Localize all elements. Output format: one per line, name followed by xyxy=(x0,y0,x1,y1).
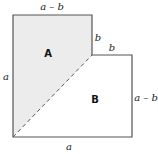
top-edge-label: a – b xyxy=(40,1,64,12)
region-a-label: A xyxy=(44,48,52,59)
notch-horizontal-label: b xyxy=(109,42,115,53)
region-b-label: B xyxy=(91,94,99,105)
bottom-edge-label: a xyxy=(66,141,72,152)
left-edge-label: a xyxy=(3,71,9,82)
region-a xyxy=(13,15,92,137)
l-shape-diagram: A B a – b b b a a – b a xyxy=(0,0,158,154)
notch-vertical-label: b xyxy=(95,32,101,43)
right-edge-label: a – b xyxy=(134,92,158,103)
